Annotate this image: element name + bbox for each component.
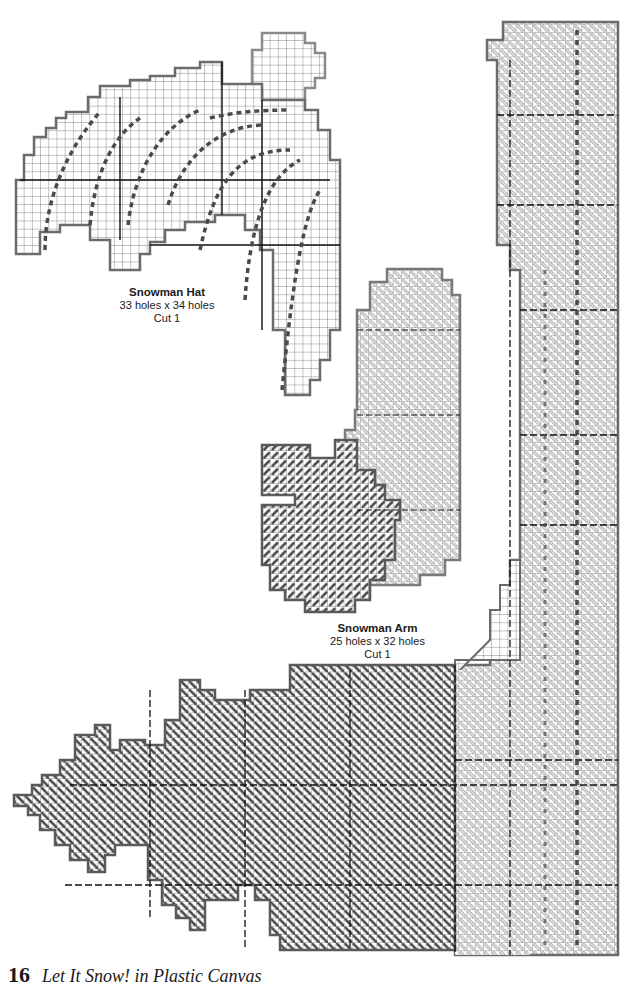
snowman-arm-cut: Cut 1: [320, 648, 435, 661]
snowman-arm-label: Snowman Arm 25 holes x 32 holes Cut 1: [320, 622, 435, 661]
snowman-hat-graph: [16, 33, 340, 395]
snowman-arm-size: 25 holes x 32 holes: [320, 635, 435, 648]
snowman-hat-label: Snowman Hat 33 holes x 34 holes Cut 1: [112, 286, 222, 325]
hat-body: [16, 62, 340, 395]
tree-light-section: [455, 670, 530, 955]
snowman-hat-cut: Cut 1: [112, 312, 222, 325]
pattern-artwork: [0, 0, 629, 995]
page-footer: 16 Let It Snow! in Plastic Canvas: [8, 962, 262, 988]
tree-body: [14, 665, 455, 950]
snowman-hat-title: Snowman Hat: [112, 286, 222, 299]
page-number: 16: [8, 962, 30, 987]
snowman-arm-title: Snowman Arm: [320, 622, 435, 635]
book-title: Let It Snow! in Plastic Canvas: [42, 966, 262, 986]
snowman-hat-size: 33 holes x 34 holes: [112, 299, 222, 312]
